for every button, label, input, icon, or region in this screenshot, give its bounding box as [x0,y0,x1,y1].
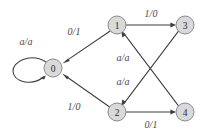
node-2-label: 2 [115,108,120,118]
node-4[interactable]: 4 [176,103,194,121]
state-machine-diagram: 0 1 2 3 4 a/a 0/1 1/0 1/0 0/1 a/a a/a [0,0,206,137]
edge-3-to-2 [121,31,178,107]
edge-0-to-0 [13,58,47,82]
node-4-label: 4 [183,108,188,118]
node-0-label: 0 [51,64,56,74]
diagram-canvas: 0 1 2 3 4 a/a 0/1 1/0 1/0 0/1 a/a a/a [0,0,206,137]
edge-4-to-1 [121,30,178,106]
edge-0-to-0-path [13,58,47,82]
edge-2-to-4 [126,110,176,115]
node-3-label: 3 [183,21,188,31]
edge-label-2-to-0: 1/0 [68,101,81,112]
edge-label-2-to-4: 0/1 [145,119,158,130]
node-0[interactable]: 0 [44,59,62,77]
node-1[interactable]: 1 [108,16,126,34]
edge-2-to-4-arrowhead [170,110,176,115]
edge-3-to-2-path [124,31,179,103]
node-3[interactable]: 3 [176,16,194,34]
node-2[interactable]: 2 [108,103,126,121]
edge-label-4-to-1: a/a [117,52,130,63]
edge-4-to-1-path [124,34,179,106]
edge-1-to-3-arrowhead [170,23,176,28]
edge-label-3-to-2: a/a [117,76,130,87]
node-1-label: 1 [115,21,120,31]
edge-label-1-to-0: 0/1 [68,26,81,37]
edge-2-to-0-arrowhead [62,74,69,80]
edge-label-1-to-3: 1/0 [145,8,158,19]
edge-label-0-to-0: a/a [20,36,33,47]
edge-1-to-3 [126,23,176,28]
